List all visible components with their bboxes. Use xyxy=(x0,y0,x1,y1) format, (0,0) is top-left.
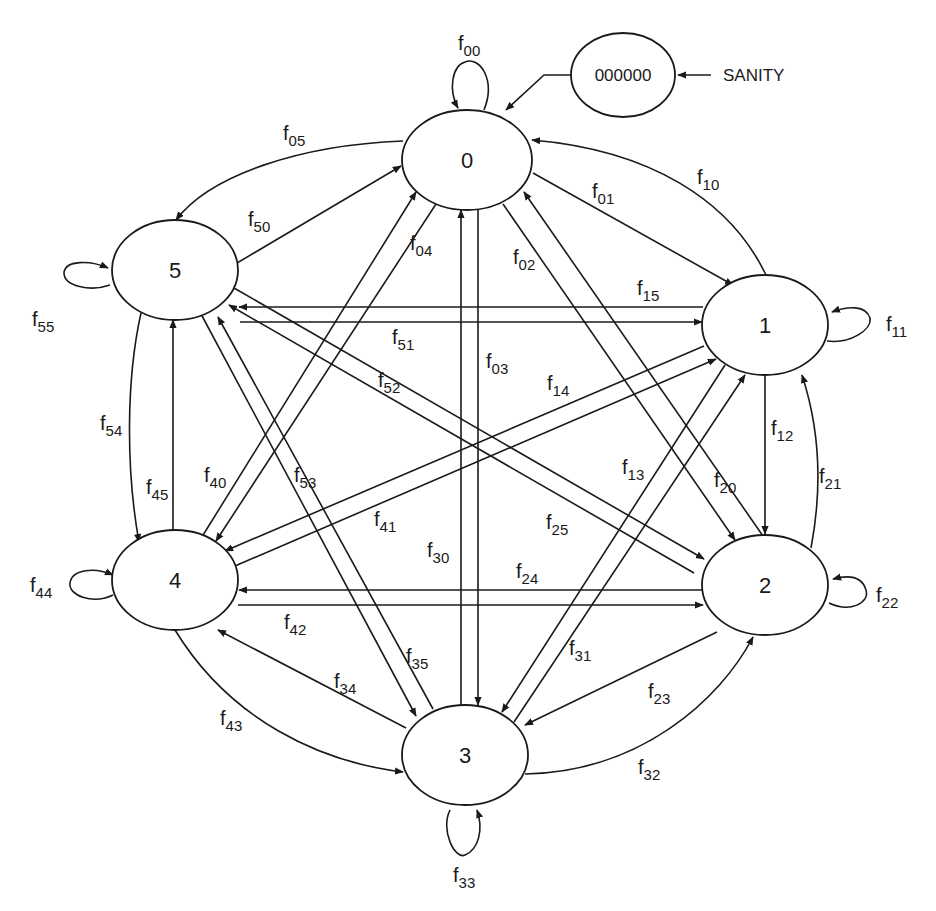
label-f12: f12 xyxy=(771,417,793,444)
state-node-3: 3 xyxy=(402,705,528,805)
state-node-5: 5 xyxy=(112,220,238,320)
label-f11: f11 xyxy=(886,313,907,340)
label-f13: f13 xyxy=(622,456,644,483)
edge-f25 xyxy=(234,288,704,559)
label-f32: f32 xyxy=(638,756,660,783)
edge-f33 xyxy=(447,810,480,856)
label-f04: f04 xyxy=(410,232,432,259)
edge-f02 xyxy=(503,204,735,540)
edge-f54 xyxy=(129,313,141,542)
edge-f22 xyxy=(829,577,867,607)
label-f15: f15 xyxy=(637,277,659,304)
edge-f35 xyxy=(218,317,433,709)
label-f23: f23 xyxy=(648,680,670,707)
edge-f13 xyxy=(502,365,725,712)
state-node-2: 2 xyxy=(702,535,828,635)
label-f31: f31 xyxy=(569,637,591,664)
edge-f21 xyxy=(802,375,818,548)
state-label-1: 1 xyxy=(759,313,771,338)
state-node-1: 1 xyxy=(702,275,828,375)
label-f41: f41 xyxy=(374,508,396,535)
label-f03: f03 xyxy=(486,350,508,377)
edge-f44 xyxy=(70,570,113,599)
state-label-4: 4 xyxy=(169,568,181,593)
state-label-5: 5 xyxy=(169,258,181,283)
state-node-4: 4 xyxy=(112,530,238,630)
label-f20: f20 xyxy=(714,469,736,496)
label-f01: f01 xyxy=(592,180,614,207)
edge-f32 xyxy=(525,637,753,774)
edge-f05 xyxy=(176,141,403,220)
label-f30: f30 xyxy=(427,539,449,566)
label-f44: f44 xyxy=(30,574,52,601)
edge-f31 xyxy=(514,375,745,722)
label-f42: f42 xyxy=(284,611,306,638)
label-f45: f45 xyxy=(146,476,168,503)
sanity-node: 000000 xyxy=(571,33,675,117)
label-f00: f00 xyxy=(458,32,480,59)
label-f14: f14 xyxy=(547,372,569,399)
label-f05: f05 xyxy=(283,122,305,149)
label-f22: f22 xyxy=(876,584,898,611)
sanity-input-label: SANITY xyxy=(723,66,784,85)
sanity-value: 000000 xyxy=(595,66,652,85)
label-f25: f25 xyxy=(546,511,568,538)
state-node-0: 0 xyxy=(402,110,532,210)
state-label-2: 2 xyxy=(759,573,771,598)
label-f43: f43 xyxy=(220,707,242,734)
label-f35: f35 xyxy=(406,645,428,672)
label-f53: f53 xyxy=(294,464,316,491)
label-f10: f10 xyxy=(697,166,719,193)
label-f51: f51 xyxy=(392,326,414,353)
edge-f14 xyxy=(225,346,704,551)
label-f50: f50 xyxy=(248,208,270,235)
label-f55: f55 xyxy=(32,308,54,335)
edge-f11 xyxy=(827,308,870,342)
edge-f23 xyxy=(525,632,717,725)
nodes: 000000 SANITY 0 1 2 3 4 5 xyxy=(112,33,828,805)
edge-f41 xyxy=(235,359,716,566)
label-f40: f40 xyxy=(204,464,226,491)
edge-f55 xyxy=(64,263,110,288)
sanity-to-state0-arrow xyxy=(506,75,571,110)
state-label-3: 3 xyxy=(459,743,471,768)
label-f24: f24 xyxy=(516,560,538,587)
label-f02: f02 xyxy=(513,246,535,273)
label-f21: f21 xyxy=(819,465,841,492)
edge-f43 xyxy=(175,630,403,772)
label-f33: f33 xyxy=(453,864,475,891)
state-label-0: 0 xyxy=(461,148,473,173)
label-f54: f54 xyxy=(100,412,122,439)
edge-f00 xyxy=(452,61,488,110)
state-diagram: 000000 SANITY 0 1 2 3 4 5 f00 f01 xyxy=(0,0,936,911)
